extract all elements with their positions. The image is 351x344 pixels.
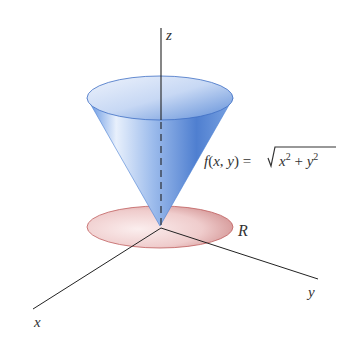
z-axis-label: z <box>165 27 172 43</box>
svg-text:x2 + y2: x2 + y2 <box>278 151 318 169</box>
surface-equation: f(x, y) = x2 + y2 <box>204 147 336 170</box>
cone-diagram: z x y R f(x, y) = x2 + y2 <box>0 0 351 344</box>
svg-text:f(x, y) =: f(x, y) = <box>204 153 251 170</box>
region-label: R <box>237 222 248 239</box>
x-axis <box>33 228 161 309</box>
y-axis-label: y <box>306 284 315 300</box>
x-axis-label: x <box>33 314 41 330</box>
cone-top <box>87 76 233 120</box>
